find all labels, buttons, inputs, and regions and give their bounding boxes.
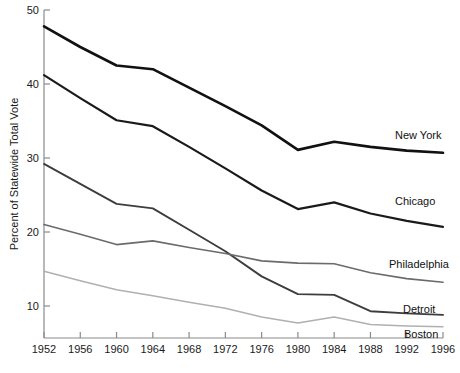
x-tick-label: 1976 — [249, 343, 273, 355]
series-line-boston — [44, 271, 443, 327]
y-tick-label: 40 — [27, 78, 39, 90]
y-axis-ticks — [44, 10, 50, 306]
x-tick-label: 1988 — [358, 343, 382, 355]
x-tick-label: 1992 — [394, 343, 418, 355]
x-tick-label: 1980 — [286, 343, 310, 355]
y-tick-label: 10 — [27, 300, 39, 312]
y-tick-label: 50 — [27, 4, 39, 16]
x-tick-label: 1964 — [141, 343, 165, 355]
series-line-chicago — [44, 75, 443, 227]
y-tick-label: 30 — [27, 152, 39, 164]
x-tick-label: 1996 — [431, 343, 455, 355]
line-chart: 1020304050 19521956196019641968197219761… — [0, 0, 460, 373]
y-axis-title: Percent of Statewide Total Vote — [8, 98, 20, 251]
series-line-philadelphia — [44, 225, 443, 283]
series-line-detroit — [44, 164, 443, 315]
x-axis-ticks — [44, 332, 443, 338]
x-tick-label: 1984 — [322, 343, 346, 355]
x-axis-tick-labels: 1952195619601964196819721976198019841988… — [32, 343, 455, 355]
series-label-detroit: Detroit — [403, 303, 435, 315]
series-label-chicago: Chicago — [395, 195, 435, 207]
data-series-group — [44, 26, 443, 326]
series-line-new-york — [44, 26, 443, 153]
y-axis-tick-labels: 1020304050 — [27, 4, 39, 312]
x-tick-label: 1956 — [68, 343, 92, 355]
chart-canvas: 1020304050 19521956196019641968197219761… — [0, 0, 460, 373]
x-tick-label: 1972 — [213, 343, 237, 355]
series-label-philadelphia: Philadelphia — [389, 258, 450, 270]
series-label-boston: Boston — [404, 328, 438, 340]
y-tick-label: 20 — [27, 226, 39, 238]
x-tick-label: 1968 — [177, 343, 201, 355]
x-tick-label: 1960 — [104, 343, 128, 355]
series-labels-group: New YorkChicagoPhiladelphiaDetroitBoston — [389, 129, 450, 340]
x-tick-label: 1952 — [32, 343, 56, 355]
series-label-new-york: New York — [395, 129, 442, 141]
